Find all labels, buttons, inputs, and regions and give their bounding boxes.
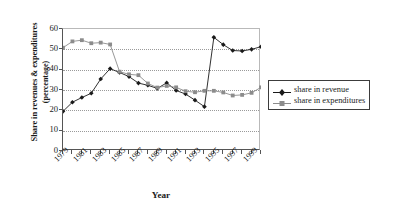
chart-legend: share in revenue share in expenditures [268, 80, 370, 110]
legend-marker-diamond-icon [272, 84, 292, 95]
data-point-marker [155, 86, 159, 90]
data-point-marker [80, 38, 84, 42]
data-point-marker [71, 40, 75, 44]
data-point-marker [174, 85, 178, 89]
x-axis-tick-mark [166, 150, 167, 154]
x-axis-tick-mark [185, 150, 186, 154]
data-point-marker [80, 95, 85, 100]
data-point-marker [184, 89, 188, 93]
y-axis-tick-mark [59, 69, 62, 70]
y-axis-tick-mark [59, 130, 62, 131]
data-point-marker [250, 91, 254, 95]
y-axis-tick-mark [59, 150, 62, 151]
y-axis-tick-label: 50 [36, 44, 58, 53]
legend-item-revenue: share in revenue [272, 84, 365, 95]
data-point-marker [165, 84, 169, 88]
data-point-marker [240, 49, 245, 54]
x-axis-tick-mark [128, 150, 129, 154]
x-axis-tick-mark [71, 150, 72, 154]
data-point-marker [212, 89, 216, 93]
series-layer [63, 29, 261, 151]
data-point-marker [259, 85, 261, 89]
data-point-marker [108, 43, 112, 47]
x-axis-tick-mark [203, 150, 204, 154]
y-axis-tick-mark [59, 28, 62, 29]
x-axis-title: Year [62, 190, 260, 200]
data-point-marker [249, 47, 254, 52]
y-axis-tick-label: 20 [36, 105, 58, 114]
data-point-marker [63, 46, 65, 50]
data-point-marker [259, 44, 261, 49]
x-axis-tick-mark [109, 150, 110, 154]
data-point-marker [99, 41, 103, 45]
y-axis-tick-label: 60 [36, 24, 58, 33]
data-point-marker [89, 91, 94, 96]
data-point-marker [230, 48, 235, 53]
data-point-marker [240, 93, 244, 97]
series-line [63, 40, 261, 95]
data-point-marker [221, 91, 225, 95]
legend-marker-square-icon [272, 95, 292, 106]
data-point-marker [203, 89, 207, 93]
legend-label-revenue: share in revenue [292, 85, 349, 94]
chart-figure: Share in revenues & expenditures (percen… [0, 0, 402, 212]
series-line [63, 37, 261, 111]
y-axis-tick-mark [59, 89, 62, 90]
y-axis-tick-label: 30 [36, 85, 58, 94]
y-axis-tick-label: 10 [36, 125, 58, 134]
data-point-marker [118, 70, 122, 74]
data-point-marker [146, 82, 150, 86]
data-point-marker [193, 90, 197, 94]
legend-item-expenditures: share in expenditures [272, 95, 365, 106]
y-axis-tick-label: 40 [36, 64, 58, 73]
y-axis-tick-mark [59, 48, 62, 49]
x-axis-tick-mark [147, 150, 148, 154]
y-axis-tick-mark [59, 109, 62, 110]
y-axis-tick-labels: 0102030405060 [34, 0, 58, 212]
data-point-marker [137, 73, 141, 77]
plot-area [62, 28, 260, 150]
y-axis-title: Share in revenues & expenditures (percen… [0, 0, 34, 160]
data-point-marker [127, 72, 131, 76]
legend-label-expenditures: share in expenditures [292, 96, 365, 105]
data-point-marker [231, 94, 235, 98]
data-point-marker [89, 41, 93, 45]
x-axis-tick-mark [90, 150, 91, 154]
x-axis-tick-mark [260, 150, 261, 154]
x-axis-tick-mark [241, 150, 242, 154]
x-axis-tick-mark [222, 150, 223, 154]
